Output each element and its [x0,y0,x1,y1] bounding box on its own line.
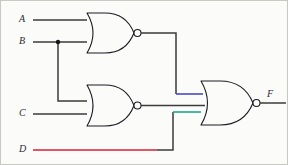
wire-input-b-branch [58,42,87,101]
output-label-f: F [267,89,273,99]
circuit-diagram-canvas: A B C D F [0,0,288,165]
wire-net-n1 [141,33,176,94]
gate-nor-2-bubble [134,102,141,109]
gate-nor-1-body [87,13,134,53]
input-label-a: A [19,14,25,24]
circuit-schematic [1,1,288,165]
gate-nor-3-body [201,81,253,125]
wire-input-d-riser [157,112,173,150]
gate-nor-3-bubble [253,100,260,107]
input-label-d: D [19,144,26,154]
gate-nor-1-bubble [134,30,141,37]
gate-nor-2[interactable] [87,85,141,126]
gate-nor-3[interactable] [201,81,260,125]
junction-dot-b [56,40,60,44]
input-label-b: B [19,36,25,46]
gate-nor-2-body [87,85,134,126]
gate-nor-1[interactable] [87,13,141,53]
input-label-c: C [19,108,26,118]
